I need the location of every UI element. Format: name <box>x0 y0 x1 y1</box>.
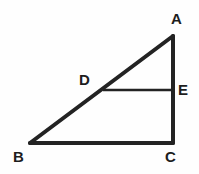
vertex-label-c: C <box>165 149 176 164</box>
vertex-label-a: A <box>171 11 182 26</box>
vertex-label-d: D <box>79 72 90 87</box>
vertex-label-e: E <box>178 82 188 97</box>
vertex-label-b: B <box>13 149 24 164</box>
geometry-figure: A B C D E <box>0 0 199 174</box>
